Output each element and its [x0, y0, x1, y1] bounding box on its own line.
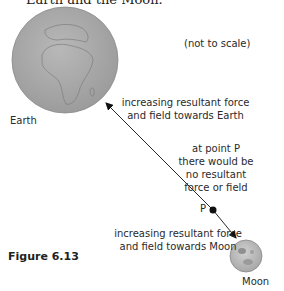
label-line: at point P: [176, 142, 256, 155]
moon-crater: [243, 259, 253, 265]
moon-crater: [250, 250, 254, 254]
label-line: there would be: [176, 155, 256, 168]
label-line: increasing resultant force: [112, 227, 244, 240]
label-line: force or field: [176, 181, 256, 194]
label-force-towards-earth: increasing resultant force and field tow…: [118, 96, 253, 122]
earth: [12, 7, 118, 113]
moon-label: Moon: [242, 276, 269, 287]
point-p-label: P: [200, 203, 206, 214]
label-force-towards-moon: increasing resultant force and field tow…: [112, 227, 244, 253]
label-line: no resultant: [176, 168, 256, 181]
earth-label: Earth: [10, 115, 37, 126]
earth-globe: [12, 7, 118, 113]
label-line: increasing resultant force: [118, 96, 253, 109]
label-point-p-info: at point P there would be no resultant f…: [176, 142, 256, 194]
not-to-scale-note: (not to scale): [184, 38, 250, 49]
label-line: and field towards Moon: [112, 240, 244, 253]
label-line: and field towards Earth: [118, 109, 253, 122]
point-p-marker: [210, 207, 217, 214]
figure-caption: Figure 6.13: [8, 250, 79, 263]
